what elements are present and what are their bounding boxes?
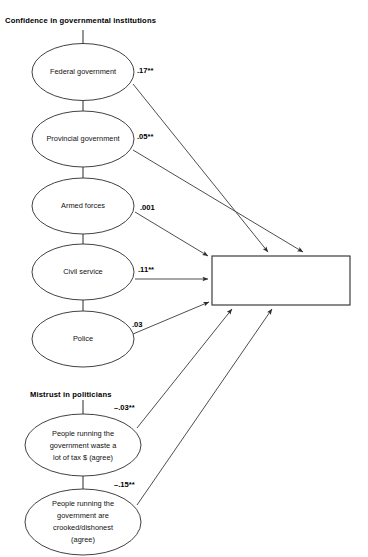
node-label-crooked-line-4: (agree)	[71, 535, 95, 544]
path-arrow-federal	[133, 84, 268, 252]
node-label-police: Police	[73, 334, 93, 343]
node-label-waste-tax-line-1: People running the	[52, 429, 114, 438]
path-arrow-waste-tax	[137, 309, 232, 428]
node-label-civil-service: Civil service	[63, 267, 102, 276]
node-label-crooked-line-3: crooked/dishonest	[53, 523, 113, 532]
node-label-federal-government: Federal government	[50, 67, 116, 76]
node-label-crooked-line-2: government are	[57, 511, 109, 520]
node-label-waste-tax-line-2: government waste a	[50, 441, 117, 450]
path-arrow-police	[133, 302, 209, 334]
diagram-canvas: Federal government Provincial government…	[0, 0, 368, 557]
node-label-armed-forces: Armed forces	[61, 201, 105, 210]
path-arrow-provincial	[133, 150, 303, 252]
path-arrow-crooked	[137, 309, 272, 505]
path-arrow-armed-forces	[135, 212, 208, 256]
node-label-provincial-government: Provincial government	[46, 134, 119, 143]
node-label-waste-tax-line-3: lot of tax $ (agree)	[53, 453, 113, 462]
node-label-crooked-line-1: People running the	[52, 499, 114, 508]
node-elected-officials	[212, 256, 350, 305]
path-diagram: Confidence in governmental institutions …	[0, 0, 368, 557]
